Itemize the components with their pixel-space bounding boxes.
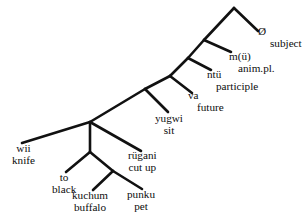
leaf-gloss-cut-up: cut up (128, 162, 157, 174)
tree-branch-n7-to-buffalo (93, 171, 113, 190)
tree-leaf-future: vafuture (188, 90, 224, 113)
tree-branch-root-to-subject (234, 8, 258, 31)
leaf-gloss-buffalo: buffalo (72, 202, 108, 214)
leaf-form-pet: punku (127, 189, 155, 201)
tree-leaf-buffalo: kuchumbuffalo (72, 190, 108, 213)
tree-leaf-pet: punkupet (127, 189, 155, 212)
tree-leaf-participle: ntüparticiple (207, 69, 258, 92)
leaf-gloss-knife: knife (12, 155, 35, 167)
tree-branch-n5-to-knife (22, 122, 90, 143)
tree-branch-n6-to-black (66, 152, 90, 172)
leaf-gloss-subject: subject (258, 38, 302, 50)
tree-branch-n1-to-animpl (204, 40, 231, 52)
tree-branch-root-to-n1 (204, 8, 234, 40)
morphological-tree-diagram: Øsubjectm(ü)anim.pl.ntüparticiplevafutur… (0, 0, 306, 221)
leaf-form-knife: wii (12, 143, 35, 155)
leaf-gloss-pet: pet (127, 201, 155, 213)
leaf-form-cut-up: rügani (128, 150, 157, 162)
tree-branch-n7-to-pet (113, 171, 142, 189)
tree-branch-n4-to-n5 (90, 89, 145, 122)
leaf-form-participle: ntü (207, 69, 258, 81)
leaf-form-anim-pl: m(ü) (229, 51, 275, 63)
tree-leaf-sit: yugwisit (155, 113, 183, 136)
tree-leaf-subject: Øsubject (258, 26, 302, 49)
leaf-form-sit: yugwi (155, 113, 183, 125)
leaf-form-future: va (188, 90, 224, 102)
leaf-form-subject: Ø (258, 26, 302, 38)
tree-branch-n5-to-cutup (90, 122, 141, 151)
leaf-form-buffalo: kuchum (72, 190, 108, 202)
leaf-gloss-future: future (188, 102, 224, 114)
tree-branch-n4-to-sit (145, 89, 168, 112)
tree-leaf-cut-up: rüganicut up (128, 150, 157, 173)
leaf-gloss-sit: sit (155, 125, 183, 137)
tree-branch-n1-to-n2 (188, 40, 204, 58)
tree-leaf-knife: wiiknife (12, 143, 35, 166)
tree-branch-n3-to-n4 (145, 76, 170, 89)
tree-branch-n2-to-n3 (170, 58, 188, 76)
leaf-form-black: to (52, 172, 76, 184)
tree-branch-n6-to-n7 (90, 152, 113, 171)
